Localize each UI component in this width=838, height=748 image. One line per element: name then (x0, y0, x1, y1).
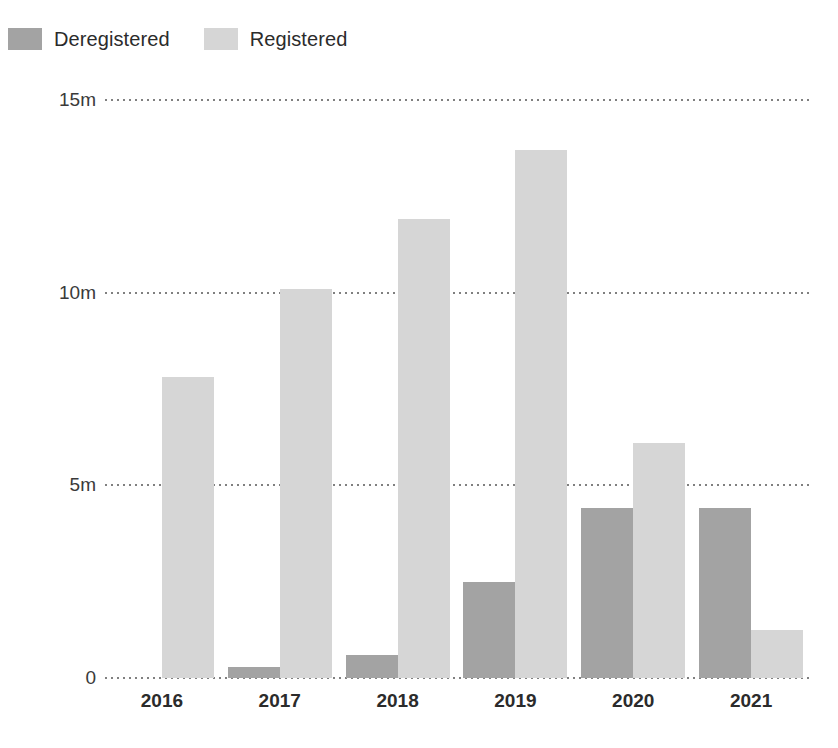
y-axis-tick-label: 15m (6, 89, 96, 111)
x-axis-tick-label: 2016 (141, 690, 183, 712)
x-axis: 201620172018201920202021 (103, 690, 810, 724)
chart-legend: Deregistered Registered (8, 26, 347, 52)
bar-registered-2021[interactable] (751, 630, 803, 678)
bar-deregistered-2021[interactable] (699, 508, 751, 678)
y-axis: 15m10m5m0 (0, 100, 96, 678)
bar-registered-2016[interactable] (162, 377, 214, 678)
bar-deregistered-2020[interactable] (581, 508, 633, 678)
x-axis-tick-label: 2021 (730, 690, 772, 712)
bar-registered-2017[interactable] (280, 289, 332, 678)
bar-registered-2019[interactable] (515, 150, 567, 678)
x-axis-tick-label: 2018 (376, 690, 418, 712)
legend-swatch-deregistered (8, 28, 42, 50)
x-axis-tick-label: 2020 (612, 690, 654, 712)
x-axis-tick-label: 2017 (259, 690, 301, 712)
legend-item-registered[interactable]: Registered (204, 28, 348, 51)
x-axis-tick-label: 2019 (494, 690, 536, 712)
bar-registered-2018[interactable] (398, 219, 450, 678)
plot-area (103, 100, 810, 678)
legend-item-deregistered[interactable]: Deregistered (8, 28, 170, 51)
gridline (103, 99, 810, 101)
bar-chart: Deregistered Registered 15m10m5m0 201620… (0, 0, 838, 748)
legend-swatch-registered (204, 28, 238, 50)
y-axis-tick-label: 0 (6, 667, 96, 689)
legend-label-registered: Registered (250, 28, 348, 51)
y-axis-tick-label: 5m (6, 474, 96, 496)
bar-deregistered-2017[interactable] (228, 667, 280, 678)
y-axis-tick-label: 10m (6, 282, 96, 304)
gridline (103, 292, 810, 294)
bar-deregistered-2018[interactable] (346, 655, 398, 678)
bar-deregistered-2019[interactable] (463, 582, 515, 678)
legend-label-deregistered: Deregistered (54, 28, 170, 51)
bar-registered-2020[interactable] (633, 443, 685, 678)
